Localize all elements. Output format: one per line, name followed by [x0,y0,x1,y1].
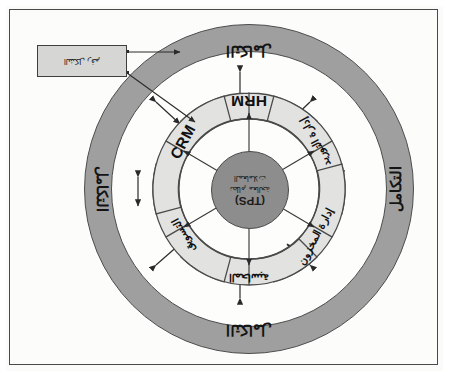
callout-box: الشكل رقم [37,45,127,77]
leader-diagonal [127,73,195,122]
figure-frame: التكامل التكامل التكامل التكامل [9,9,438,365]
callout-text: الشكل رقم [64,57,100,66]
figure-canvas: التكامل التكامل التكامل التكامل [0,0,451,379]
